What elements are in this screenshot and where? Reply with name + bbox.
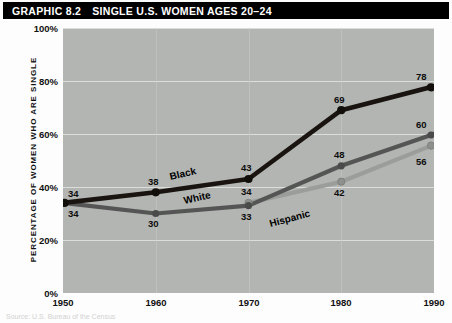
x-tick-1990: 1990 xyxy=(406,297,452,308)
y-tick-40: 40% xyxy=(12,182,58,193)
point-black-1970 xyxy=(244,175,252,183)
x-tick-1950: 1950 xyxy=(35,297,91,308)
page-title: SINGLE U.S. WOMEN AGES 20–24 xyxy=(92,5,272,17)
x-tick-1970: 1970 xyxy=(221,297,277,308)
x-tick-1980: 1980 xyxy=(313,297,369,308)
point-white-1960 xyxy=(152,210,159,217)
point-black-1980 xyxy=(337,106,345,114)
y-tick-20: 20% xyxy=(12,235,58,246)
value-label-black-1950: 34 xyxy=(68,188,79,199)
point-black-1950 xyxy=(63,199,69,207)
value-label-white-1960: 30 xyxy=(148,218,159,229)
chart-series-svg xyxy=(63,28,434,293)
point-black-1960 xyxy=(152,188,160,196)
value-label-white-1980: 48 xyxy=(334,149,345,160)
point-white-1970 xyxy=(245,202,252,209)
graphic-number: GRAPHIC 8.2 xyxy=(12,5,81,17)
value-label-black-1990: 78 xyxy=(416,71,427,82)
value-label-white-1970: 33 xyxy=(241,211,252,222)
x-tick-1960: 1960 xyxy=(128,297,184,308)
value-label-hispanic-1970: 34 xyxy=(241,186,252,197)
value-label-hispanic-1990: 56 xyxy=(416,156,427,167)
graphic-title-bar: GRAPHIC 8.2 SINGLE U.S. WOMEN AGES 20–24 xyxy=(3,2,449,19)
y-tick-60: 60% xyxy=(12,129,58,140)
point-hispanic-1990 xyxy=(427,142,434,149)
point-hispanic-1980 xyxy=(338,178,345,185)
point-white-1980 xyxy=(338,162,345,169)
y-tick-80: 80% xyxy=(12,76,58,87)
value-label-white-1950: 34 xyxy=(68,208,79,219)
value-label-black-1970: 43 xyxy=(241,162,252,173)
value-label-hispanic-1980: 42 xyxy=(334,187,345,198)
y-tick-100: 100% xyxy=(12,23,58,34)
value-label-black-1960: 38 xyxy=(148,176,159,187)
value-label-black-1980: 69 xyxy=(334,94,345,105)
value-label-white-1990: 60 xyxy=(416,119,427,130)
chart-plot-area: 34 34 38 30 43 34 33 69 48 42 78 60 56 B… xyxy=(63,28,434,293)
source-note: Source: U.S. Bureau of the Census xyxy=(6,313,115,320)
